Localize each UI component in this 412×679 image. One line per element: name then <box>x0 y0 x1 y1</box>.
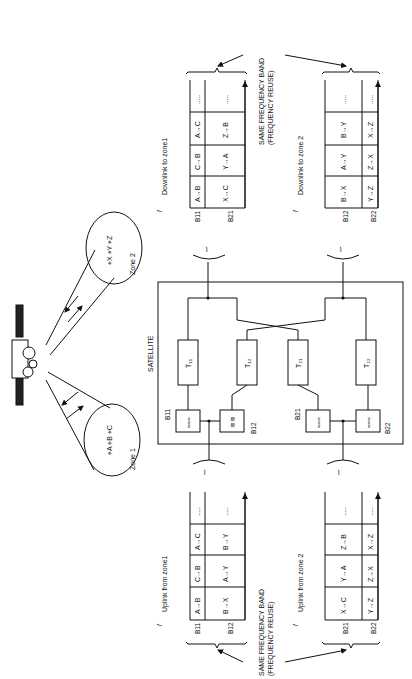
cell: A→Y <box>340 153 347 170</box>
band-label: B21 <box>227 210 234 222</box>
cell: ..... <box>367 507 374 516</box>
band-label: B22 <box>370 622 377 634</box>
antennas: ⌇ ⌇ ⌇ ⌇ <box>193 246 359 476</box>
cell: ..... <box>194 95 201 104</box>
frequency-reuse-diagram: Zone 1 Zone 2 ⌖A ⌖B ⌖C ⌖X ⌖Y ⌖Z SATELLIT… <box>0 0 412 679</box>
svg-text:≋≋: ≋≋ <box>229 416 236 428</box>
band-label: B12 <box>342 210 349 222</box>
cell: ..... <box>367 95 374 104</box>
svg-text:⌇: ⌇ <box>203 469 206 476</box>
axis-f: f <box>156 623 163 626</box>
svg-text:⌖A ⌖B ⌖C: ⌖A ⌖B ⌖C <box>106 425 113 455</box>
satellite-payload: SATELLITE T₁₁ T₁₂ T₂₁ T₂₂ ≈≈≈ ≋≋ ≈≈≈ ≈≈≈… <box>147 262 403 460</box>
cell: Z→X <box>367 566 374 582</box>
cell: X→C <box>340 597 347 614</box>
uplink-zone1-frame: Uplink from zone1 A→B C→B A→C ..... B→X … <box>161 492 247 648</box>
cell: ..... <box>340 95 347 104</box>
frequency-reuse-note-bottom: SAME FREQUENCY BAND (FREQUENCY REUSE) <box>258 589 275 676</box>
cell: A→C <box>194 533 201 550</box>
svg-text:≈≈≈: ≈≈≈ <box>185 417 192 428</box>
cell: B→X <box>222 597 229 614</box>
cell: B→Y <box>340 121 347 138</box>
uplink-antenna-2 <box>327 460 359 464</box>
cell: B→X <box>340 185 347 202</box>
cell: A→B <box>194 185 201 202</box>
filter-label-B21: B21 <box>294 408 301 420</box>
uplink-antenna-1 <box>193 460 225 464</box>
svg-text:⌇: ⌇ <box>337 469 340 476</box>
brace <box>186 642 247 648</box>
band-label: B11 <box>194 211 201 222</box>
cell: Z→X <box>367 154 374 170</box>
cell: Y→Z <box>367 597 374 614</box>
svg-text:≈≈≈: ≈≈≈ <box>365 417 372 428</box>
downlink-zone2-title: Downlink to zone 2 <box>297 136 304 195</box>
zone2-label: Zone 2 <box>129 253 136 275</box>
svg-text:⌖X ⌖Y ⌖Z: ⌖X ⌖Y ⌖Z <box>106 235 113 265</box>
cell: ..... <box>194 507 201 516</box>
brace <box>322 68 380 74</box>
zone1-label: Zone 1 <box>129 448 136 470</box>
filter-label-B12: B12 <box>250 422 257 434</box>
brace <box>322 642 380 648</box>
downlink-antenna-2 <box>327 255 359 259</box>
band-label: B22 <box>370 210 377 222</box>
cell: A→Y <box>222 565 229 582</box>
filter-label-B22: B22 <box>384 422 391 434</box>
downlink-zone1-title: Downlink to zone1 <box>161 138 168 195</box>
zone2-beam <box>46 212 142 355</box>
svg-text:⌇: ⌇ <box>205 246 208 253</box>
cell: C→B <box>194 565 201 582</box>
frequency-reuse-note-top: SAME FREQUENCY BAND (FREQUENCY REUSE) <box>258 58 275 145</box>
downlink-zone2-frame: Downlink to zone 2 B→X A→Y B→Y ..... Y→Z… <box>297 68 380 222</box>
downlink-zone1-frame: Downlink to zone1 A→B C→B A→C ..... X→C … <box>161 68 247 222</box>
uplink-zone2-frame: Uplink from zone 2 X→C Y→A Z→B ..... Y→Z… <box>297 492 380 648</box>
satellite-label: SATELLITE <box>147 335 154 372</box>
cell: X→C <box>222 185 229 202</box>
uplink-zone2-title: Uplink from zone 2 <box>297 554 305 612</box>
axis-f: f <box>292 623 299 626</box>
svg-text:(FREQUENCY REUSE): (FREQUENCY REUSE) <box>267 601 275 676</box>
filter-label-B11: B11 <box>164 409 171 420</box>
svg-text:SAME FREQUENCY BAND: SAME FREQUENCY BAND <box>258 58 266 145</box>
satellite-illustration <box>12 305 37 405</box>
cell: B→Y <box>222 533 229 550</box>
svg-text:(FREQUENCY REUSE): (FREQUENCY REUSE) <box>267 70 275 145</box>
svg-text:≈≈≈: ≈≈≈ <box>315 417 322 428</box>
downlink-antenna-1 <box>193 255 225 259</box>
cell: X→Z <box>367 121 374 138</box>
cell: C→B <box>194 153 201 170</box>
axis-f: f <box>292 209 299 212</box>
band-label: B21 <box>342 622 349 634</box>
cell: A→C <box>194 121 201 138</box>
band-label: B12 <box>227 622 234 634</box>
cell: Y→A <box>222 153 229 170</box>
band-label: B11 <box>194 623 201 634</box>
svg-text:T₁₂: T₁₂ <box>244 358 251 368</box>
cell: ..... <box>340 507 347 516</box>
svg-text:SAME FREQUENCY BAND: SAME FREQUENCY BAND <box>258 589 266 676</box>
brace <box>186 68 247 74</box>
cell: Y→Z <box>367 185 374 202</box>
zone1-beam <box>46 372 140 476</box>
cell: X→Z <box>367 533 374 550</box>
svg-text:T₂₁: T₂₁ <box>295 358 302 368</box>
cell: Z→B <box>222 122 229 138</box>
cell: ..... <box>222 507 229 516</box>
zone1-stations: ⌖A ⌖B ⌖C <box>106 425 113 455</box>
svg-text:⌇: ⌇ <box>339 246 342 253</box>
cell: A→B <box>194 597 201 614</box>
cell: ..... <box>222 95 229 104</box>
svg-text:T₂₂: T₂₂ <box>363 358 370 368</box>
cell: Y→A <box>340 565 347 582</box>
svg-text:T₁₁: T₁₁ <box>185 358 192 368</box>
zone2-stations: ⌖X ⌖Y ⌖Z <box>106 235 113 265</box>
cell: Z→B <box>340 534 347 550</box>
axis-f: f <box>156 209 163 212</box>
uplink-zone1-title: Uplink from zone1 <box>161 555 169 612</box>
